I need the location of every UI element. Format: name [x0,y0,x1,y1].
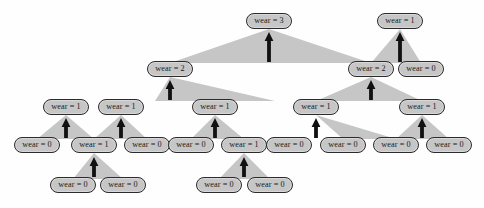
tree-node: wear = 0 [320,137,366,153]
tree-node: wear = 0 [168,137,214,153]
tree-node: wear = 1 [192,99,238,115]
tree-node-label: wear = 0 [267,138,311,152]
tree-node-label: wear = 1 [222,138,266,152]
tree-node-label: wear = 3 [247,14,291,28]
tree-node: wear = 0 [373,137,419,153]
tree-node: wear = 1 [399,99,445,115]
tree-node-label: wear = 1 [99,100,143,114]
tree-node-label: wear = 1 [294,100,338,114]
tree-node-label: wear = 0 [125,138,169,152]
connector-triangle [371,29,421,63]
tree-node-label: wear = 0 [197,178,241,192]
tree-node-label: wear = 1 [72,138,116,152]
tree-node: wear = 3 [246,13,292,29]
tree-node-label: wear = 0 [15,138,59,152]
tree-node: wear = 0 [100,177,146,193]
tree-node-label: wear = 0 [321,138,365,152]
tree-node: wear = 1 [293,99,339,115]
tree-node-label: wear = 2 [349,62,393,76]
tree-node: wear = 2 [147,61,193,77]
tree-node-label: wear = 1 [400,100,444,114]
up-arrow-icon [312,118,321,138]
tree-node: wear = 0 [398,61,444,77]
tree-node-label: wear = 2 [148,62,192,76]
tree-node: wear = 2 [348,61,394,77]
tree-diagram-figure: wear = 3wear = 2wear = 1wear = 2wear = 0… [0,0,484,208]
tree-node: wear = 0 [247,177,293,193]
tree-node: wear = 1 [377,13,423,29]
tree-node-label: wear = 1 [378,14,422,28]
tree-node: wear = 1 [43,99,89,115]
tree-node-label: wear = 0 [399,62,443,76]
tree-node: wear = 0 [50,177,96,193]
tree-node-label: wear = 0 [169,138,213,152]
tree-node-label: wear = 0 [374,138,418,152]
tree-node: wear = 1 [71,137,117,153]
tree-node: wear = 0 [196,177,242,193]
connector-triangle [316,115,396,139]
tree-node: wear = 0 [266,137,312,153]
tree-node-label: wear = 0 [248,178,292,192]
tree-node-label: wear = 0 [427,138,471,152]
tree-node: wear = 1 [221,137,267,153]
tree-node: wear = 0 [124,137,170,153]
tree-node-label: wear = 0 [51,178,95,192]
tree-node: wear = 0 [426,137,472,153]
tree-node: wear = 0 [14,137,60,153]
tree-node-label: wear = 1 [193,100,237,114]
tree-node: wear = 1 [98,99,144,115]
tree-node-label: wear = 0 [101,178,145,192]
tree-node-label: wear = 1 [44,100,88,114]
